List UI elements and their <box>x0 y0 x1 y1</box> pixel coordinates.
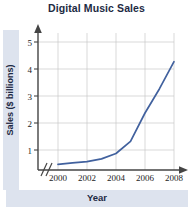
y-tick-label-3: 3 <box>28 92 33 102</box>
x-tick-label-2004: 2004 <box>107 173 126 183</box>
chart-figure: Digital Music Sales Sales ($ billions) Y… <box>0 0 193 217</box>
x-tick-label-2002: 2002 <box>78 173 96 183</box>
y-tick-label-4: 4 <box>28 65 33 75</box>
y-tick-label-5: 5 <box>28 38 33 48</box>
x-tick-labels: 2000 2002 2004 2006 2008 <box>49 173 184 183</box>
y-axis <box>34 24 42 170</box>
y-tick-label-2: 2 <box>28 119 33 129</box>
vertical-gridlines <box>58 33 174 170</box>
y-tick-label-1: 1 <box>28 146 33 156</box>
x-tick-label-2000: 2000 <box>49 173 68 183</box>
plot-area: 1 2 3 4 5 2000 2002 2004 2006 2008 <box>0 0 193 217</box>
x-tick-label-2006: 2006 <box>136 173 155 183</box>
horizontal-gridlines <box>38 42 174 150</box>
y-tick-labels: 1 2 3 4 5 <box>28 38 33 156</box>
x-tick-label-2008: 2008 <box>165 173 184 183</box>
